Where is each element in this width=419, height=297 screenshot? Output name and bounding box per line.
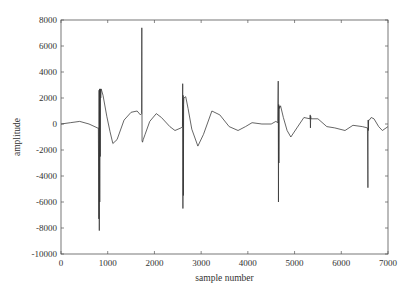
y-tick-label: 4000 (39, 67, 58, 77)
x-tick-label: 1000 (99, 258, 118, 268)
x-tick-label: 0 (59, 258, 64, 268)
y-tick-label: -2000 (36, 145, 57, 155)
x-tick-label: 6000 (332, 258, 351, 268)
y-tick-label: -8000 (36, 223, 57, 233)
y-tick-label: 2000 (39, 93, 58, 103)
x-tick-label: 7000 (379, 258, 398, 268)
y-tick-label: -10000 (32, 249, 58, 259)
y-axis-ticks: -10000-8000-6000-4000-200002000400060008… (32, 15, 389, 259)
plot-frame (61, 20, 388, 254)
x-axis-label: sample number (195, 273, 254, 283)
y-tick-label: -6000 (36, 197, 57, 207)
y-tick-label: 0 (53, 119, 58, 129)
x-tick-label: 4000 (239, 258, 258, 268)
y-axis-label: amplitude (12, 118, 22, 156)
x-tick-label: 2000 (145, 258, 164, 268)
chart: -10000-8000-6000-4000-200002000400060008… (0, 0, 419, 297)
x-axis-ticks: 01000200030004000500060007000 (59, 20, 398, 268)
y-tick-label: 8000 (39, 15, 58, 25)
signal-line (61, 28, 388, 231)
x-tick-label: 5000 (286, 258, 305, 268)
y-tick-label: 6000 (39, 41, 58, 51)
y-tick-label: -4000 (36, 171, 57, 181)
x-tick-label: 3000 (192, 258, 211, 268)
